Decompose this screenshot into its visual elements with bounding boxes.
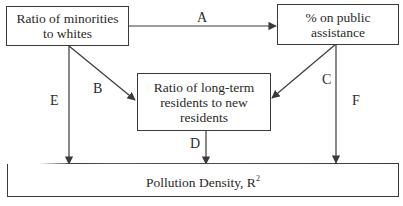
node-residents-line3: residents	[154, 110, 254, 125]
node-minorities-to-whites: Ratio of minorities to whites	[6, 6, 129, 46]
node-minorities-line2: to whites	[17, 26, 119, 41]
node-assistance-line2: assistance	[305, 25, 370, 40]
node-assistance-line1: % on public	[305, 10, 370, 25]
edge-label-d: D	[190, 137, 200, 151]
node-pollution-label: Pollution Density, R	[146, 174, 256, 189]
edge-label-e: E	[50, 94, 59, 108]
node-pollution-density: Pollution Density, R2	[7, 164, 399, 197]
edge-label-c: C	[322, 73, 331, 87]
node-minorities-line1: Ratio of minorities	[17, 11, 119, 26]
node-residents-line1: Ratio of long-term	[154, 80, 254, 95]
edge-c-arrow	[272, 44, 336, 98]
node-pollution-superscript: 2	[256, 174, 260, 183]
node-long-term-residents: Ratio of long-term residents to new resi…	[137, 73, 271, 131]
edge-label-b: B	[93, 82, 102, 96]
edge-label-a: A	[197, 11, 207, 25]
node-public-assistance: % on public assistance	[277, 4, 399, 45]
pollution-box-top-border	[38, 163, 399, 164]
node-residents-line2: residents to new	[154, 95, 254, 110]
edge-label-f: F	[352, 94, 360, 108]
